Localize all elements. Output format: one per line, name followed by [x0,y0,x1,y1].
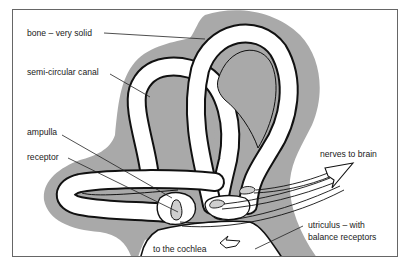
label-utriculus-line1: utriculus – with [308,220,365,230]
receptor [171,200,182,220]
label-to-cochlea: to the cochlea [153,244,207,254]
label-receptor: receptor [27,152,59,162]
ear-diagram: bone – very solid semi-circular canal am… [0,0,410,274]
diagram-canvas: bone – very solid semi-circular canal am… [0,0,410,274]
label-ampulla: ampulla [27,127,57,137]
label-bone: bone – very solid [27,28,92,38]
label-utriculus-line2: balance receptors [308,232,376,242]
label-semicircular-canal: semi-circular canal [27,67,99,77]
label-nerves-to-brain: nerves to brain [320,149,377,159]
